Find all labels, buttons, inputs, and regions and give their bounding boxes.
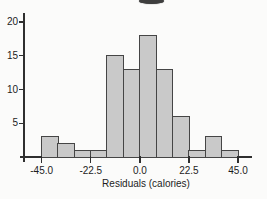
x-tick-mark [90, 156, 91, 162]
y-tick-label: 15 [0, 51, 18, 61]
histogram-bar [106, 55, 124, 158]
x-tick-label: -45.0 [30, 166, 53, 176]
y-tick-label: 10 [0, 85, 18, 95]
histogram-bar [41, 136, 59, 158]
histogram-bar [123, 69, 141, 158]
y-tick-mark [19, 89, 25, 90]
x-axis-title: Residuals (calories) [102, 178, 190, 189]
histogram-bar [139, 35, 157, 158]
x-tick-mark [188, 156, 189, 162]
y-tick-label: 20 [0, 17, 18, 27]
x-tick-label: 0.0 [133, 166, 147, 176]
x-tick-label: -22.5 [79, 166, 102, 176]
y-tick-mark [19, 123, 25, 124]
y-axis-line [23, 13, 24, 162]
x-tick-mark [237, 156, 238, 162]
y-tick-mark [19, 55, 25, 56]
x-tick-mark [139, 156, 140, 162]
x-tick-mark [41, 156, 42, 162]
y-tick-label: 5 [0, 118, 18, 128]
histogram-bar [221, 150, 239, 158]
histogram-bar [90, 150, 108, 158]
y-tick-mark [19, 21, 25, 22]
histogram-bar [188, 150, 206, 158]
histogram-bar [172, 116, 190, 158]
histogram-bar [205, 136, 223, 158]
cropped-title-fragment-icon [139, 0, 164, 4]
histogram-figure: 5101520 -45.0-22.50.022.545.0 Residuals … [0, 0, 267, 199]
histogram-bar [57, 143, 75, 158]
x-tick-label: 45.0 [228, 166, 247, 176]
x-tick-label: 22.5 [179, 166, 198, 176]
histogram-bar [156, 69, 174, 158]
histogram-bar [74, 150, 92, 158]
